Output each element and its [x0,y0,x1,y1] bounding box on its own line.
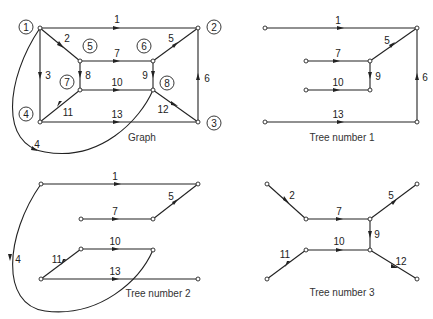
tree3-edge-label-2: 2 [289,190,295,201]
edge-11 [40,90,80,122]
tree1-edge-label-7: 7 [335,48,341,59]
tree1-edge-label-5: 5 [384,35,390,46]
arrow-icon [113,120,120,124]
edge-label-2: 2 [64,33,70,44]
tree3-edge-label-5: 5 [388,190,394,201]
edge-label-10: 10 [111,77,123,88]
edge-label-13: 13 [111,109,123,120]
tree1-edge-label-9: 9 [375,71,381,82]
node-1 [38,26,42,30]
tree2-edge-label-11: 11 [52,254,63,265]
tree2-edge-label-10: 10 [109,236,121,247]
tree2-edge-label-7: 7 [112,206,118,217]
edge-label-8: 8 [85,70,91,81]
tree3-edge-label-9: 9 [374,229,380,240]
edge-label-12: 12 [157,104,169,115]
tree3-panel: 2 5 7 9 10 11 12 Tree number 3 [265,182,419,298]
graph-caption: Graph [128,132,156,143]
graph-arrows [31,26,200,151]
arrow-icon [78,71,82,78]
arrow-icon [113,59,120,63]
tree1-caption: Tree number 1 [309,132,375,143]
edge-label-11: 11 [63,107,74,118]
node-6 [151,59,155,63]
tree3-edge-label-7: 7 [336,206,342,217]
tree1-edge-label-6: 6 [422,72,428,83]
node-label-2: 2 [211,22,217,33]
tree2-caption: Tree number 2 [125,288,191,299]
arrow-icon [38,72,42,79]
node-3 [196,120,200,124]
node-label-4: 4 [23,109,29,120]
tree3-edge-label-12: 12 [395,256,407,267]
node-8 [151,88,155,92]
tree2-edge-label-4: 4 [15,254,21,265]
tree1-panel: 1 5 6 7 9 10 13 Tree number 1 [263,15,428,143]
tree2-edge-label-5: 5 [168,191,174,202]
arrow-icon [113,26,120,30]
edge-label-4: 4 [34,139,40,150]
edge-label-5: 5 [168,33,174,44]
node-label-6: 6 [141,41,147,52]
tree1-edge-label-13: 13 [332,109,344,120]
arrow-icon [171,101,178,106]
node-2 [196,26,200,30]
arrow-icon [57,41,64,48]
tree2-edge-label-13: 13 [109,266,121,277]
graph-trees-figure: 1 2 3 4 5 6 7 8 1 2 3 4 5 6 7 8 9 [0,0,433,319]
edge-label-6: 6 [204,73,210,84]
node-label-3: 3 [211,118,217,129]
tree3-caption: Tree number 3 [309,287,375,298]
node-label-8: 8 [164,78,170,89]
tree2-edge-label-1: 1 [112,171,118,182]
tree1-edge-label-10: 10 [332,77,344,88]
node-label-5: 5 [87,41,93,52]
node-4 [38,120,42,124]
tree1-edge-label-1: 1 [335,15,341,26]
arrow-icon [113,88,120,92]
edge-label-9: 9 [142,70,148,81]
edge-label-1: 1 [114,14,120,25]
tree2-panel: 1 4 5 7 10 11 13 Tree number 2 [8,171,200,312]
tree3-edge-label-10: 10 [333,236,345,247]
tree3-edge-label-11: 11 [280,249,291,260]
graph-panel: 1 2 3 4 5 6 7 8 1 2 3 4 5 6 7 8 9 [13,14,222,154]
node-label-1: 1 [23,22,29,33]
edge-label-7: 7 [114,48,120,59]
arrow-icon [151,71,155,78]
node-7 [78,88,82,92]
arrow-icon [196,73,200,80]
graph-edges [13,28,199,154]
node-label-7: 7 [64,77,70,88]
node-5 [78,59,82,63]
edge-label-3: 3 [45,70,51,81]
